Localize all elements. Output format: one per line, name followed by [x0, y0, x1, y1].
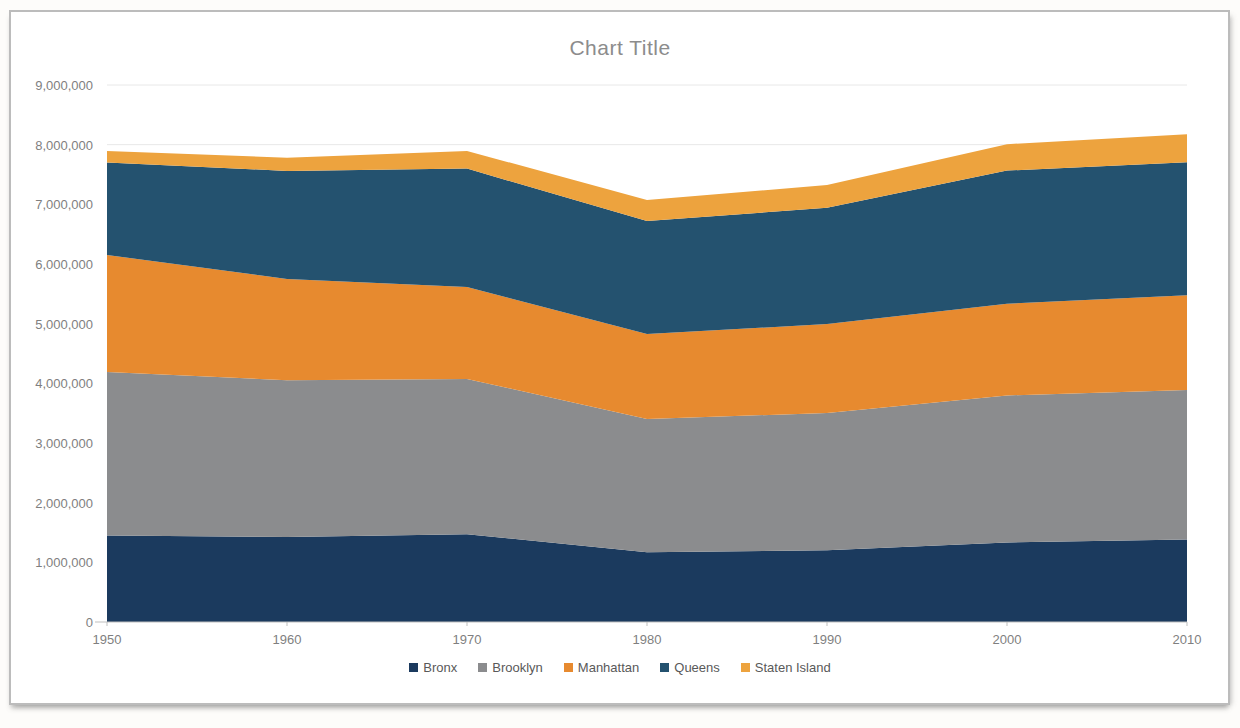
legend-label: Staten Island: [755, 660, 831, 675]
legend-swatch: [564, 663, 573, 672]
legend-label: Queens: [674, 660, 720, 675]
x-axis-label: 2000: [993, 632, 1022, 647]
legend-item-staten-island: Staten Island: [741, 660, 831, 675]
legend-label: Manhattan: [578, 660, 639, 675]
chart-title: Chart Title: [0, 36, 1240, 60]
legend-swatch: [478, 663, 487, 672]
y-axis-label: 3,000,000: [8, 436, 93, 451]
x-axis-label: 1960: [273, 632, 302, 647]
y-axis-label: 0: [8, 615, 93, 630]
legend-swatch: [409, 663, 418, 672]
plot-area: [0, 0, 1240, 728]
legend-item-bronx: Bronx: [409, 660, 457, 675]
legend-item-queens: Queens: [660, 660, 720, 675]
legend: BronxBrooklynManhattanQueensStaten Islan…: [0, 660, 1240, 675]
y-axis-label: 6,000,000: [8, 257, 93, 272]
legend-swatch: [660, 663, 669, 672]
legend-label: Bronx: [423, 660, 457, 675]
legend-swatch: [741, 663, 750, 672]
x-axis-label: 1950: [93, 632, 122, 647]
x-axis-label: 1970: [453, 632, 482, 647]
y-axis-label: 1,000,000: [8, 555, 93, 570]
y-axis-label: 5,000,000: [8, 316, 93, 331]
screenshot-canvas: Chart Title 01,000,0002,000,0003,000,000…: [0, 0, 1240, 728]
y-axis-label: 2,000,000: [8, 495, 93, 510]
y-axis-label: 8,000,000: [8, 137, 93, 152]
y-axis-label: 4,000,000: [8, 376, 93, 391]
y-axis-label: 9,000,000: [8, 78, 93, 93]
y-axis-label: 7,000,000: [8, 197, 93, 212]
x-axis-label: 1990: [813, 632, 842, 647]
legend-item-manhattan: Manhattan: [564, 660, 639, 675]
legend-item-brooklyn: Brooklyn: [478, 660, 543, 675]
legend-label: Brooklyn: [492, 660, 543, 675]
x-axis-label: 2010: [1173, 632, 1202, 647]
x-axis-label: 1980: [633, 632, 662, 647]
